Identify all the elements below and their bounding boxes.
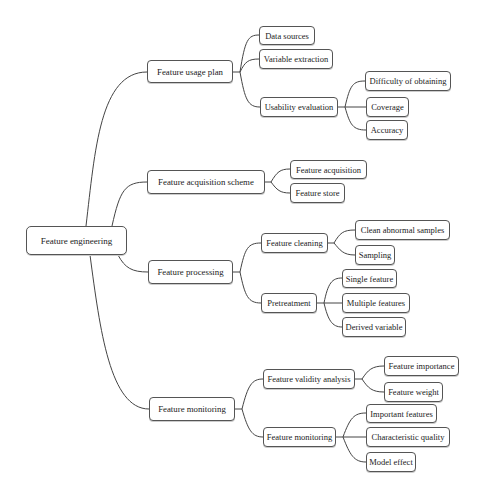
node-accuracy[interactable]: Accuracy <box>366 120 408 140</box>
node-feature-cleaning[interactable]: Feature cleaning <box>261 233 328 253</box>
node-label: Feature store <box>295 188 339 198</box>
node-label: Sampling <box>359 250 392 260</box>
node-label: Multiple features <box>347 298 405 308</box>
node-usability-evaluation[interactable]: Usability evaluation <box>260 97 338 117</box>
node-label: Feature acquisition scheme <box>158 177 254 187</box>
node-label: Difficulty of obtaining <box>370 76 447 86</box>
node-label: Feature usage plan <box>157 67 223 77</box>
node-label: Feature importance <box>389 361 455 371</box>
node-feature-usage-plan[interactable]: Feature usage plan <box>147 60 233 83</box>
node-important-features[interactable]: Important features <box>366 404 437 423</box>
node-label: Usability evaluation <box>265 102 334 112</box>
node-single-feature[interactable]: Single feature <box>342 269 397 288</box>
node-label: Feature acquisition <box>296 165 361 175</box>
node-feature-importance[interactable]: Feature importance <box>384 356 459 376</box>
node-label: Single feature <box>346 274 393 284</box>
node-feature-engineering[interactable]: Feature engineering <box>26 226 127 255</box>
node-label: Variable extraction <box>264 54 328 64</box>
node-label: Characteristic quality <box>372 432 445 442</box>
node-coverage[interactable]: Coverage <box>366 97 409 117</box>
node-label: Feature engineering <box>41 236 113 246</box>
mind-map-canvas: Feature engineering Feature usage plan F… <box>0 0 482 493</box>
node-feature-monitoring[interactable]: Feature monitoring <box>149 397 235 421</box>
node-label: Feature monitoring <box>267 432 332 442</box>
node-difficulty-of-obtaining[interactable]: Difficulty of obtaining <box>365 71 451 91</box>
node-feature-acquisition-scheme[interactable]: Feature acquisition scheme <box>147 170 265 194</box>
node-label: Feature monitoring <box>158 404 226 414</box>
node-characteristic-quality[interactable]: Characteristic quality <box>366 427 450 447</box>
node-label: Feature validity analysis <box>267 374 350 384</box>
node-feature-validity-analysis[interactable]: Feature validity analysis <box>263 369 355 389</box>
node-feature-processing[interactable]: Feature processing <box>148 260 233 284</box>
node-label: Important features <box>370 409 433 419</box>
node-label: Derived variable <box>346 322 403 332</box>
node-label: Feature processing <box>157 267 223 277</box>
node-label: Feature weight <box>388 387 439 397</box>
node-derived-variable[interactable]: Derived variable <box>342 317 406 337</box>
node-label: Coverage <box>371 102 404 112</box>
node-label: Model effect <box>369 457 413 467</box>
node-label: Feature cleaning <box>266 238 322 248</box>
node-data-sources[interactable]: Data sources <box>259 26 315 45</box>
node-label: Clean abnormal samples <box>361 225 445 235</box>
node-feature-store[interactable]: Feature store <box>290 183 345 203</box>
node-label: Pretreatment <box>267 298 310 308</box>
node-label: Data sources <box>265 31 309 41</box>
node-feature-weight[interactable]: Feature weight <box>384 382 443 402</box>
node-sampling[interactable]: Sampling <box>355 245 395 265</box>
node-pretreatment[interactable]: Pretreatment <box>261 293 317 313</box>
node-variable-extraction[interactable]: Variable extraction <box>259 49 333 69</box>
node-feature-monitoring-sub[interactable]: Feature monitoring <box>263 427 336 447</box>
node-label: Accuracy <box>371 125 404 135</box>
node-model-effect[interactable]: Model effect <box>366 452 416 472</box>
node-multiple-features[interactable]: Multiple features <box>342 293 410 313</box>
node-feature-acquisition[interactable]: Feature acquisition <box>290 160 367 179</box>
node-clean-abnormal-samples[interactable]: Clean abnormal samples <box>355 220 450 240</box>
